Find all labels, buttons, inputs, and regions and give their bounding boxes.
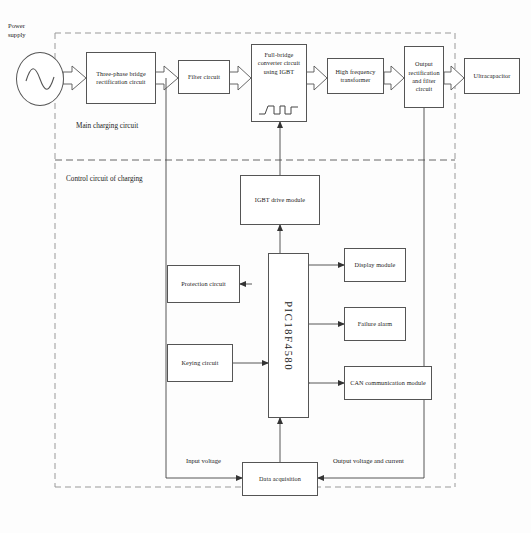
block-keying-circuit: Keying circuit xyxy=(167,344,233,382)
block-mcu-pic18f4580: PIC18F4580 xyxy=(268,253,309,418)
signal-label-input-voltage: Input voltage xyxy=(186,457,221,466)
zone-label-control-charging: Control circuit of charging xyxy=(66,175,143,183)
block-three-phase-bridge-rectifier: Three-phase bridge rectification circuit xyxy=(86,52,156,104)
signal-label-output-voltage-current: Output voltage and current xyxy=(333,457,404,466)
block-protection-circuit: Protection circuit xyxy=(167,265,240,303)
block-high-frequency-transformer: High frequency transformer xyxy=(327,58,384,94)
block-igbt-drive-module: IGBT drive module xyxy=(240,175,320,225)
block-output-rectification-filter: Output rectification and filter circuit xyxy=(404,46,444,108)
power-supply-label: Power supply xyxy=(8,22,26,40)
pwm-waveform-icon xyxy=(258,100,300,122)
block-failure-alarm: Failure alarm xyxy=(344,307,406,341)
block-data-acquisition: Data acquisition xyxy=(242,462,318,496)
ac-source-symbol xyxy=(16,52,64,106)
block-diagram: Main charging circuit Control circuit of… xyxy=(0,0,531,533)
block-display-module: Display module xyxy=(344,248,406,282)
block-filter-circuit: Filter circuit xyxy=(178,60,230,94)
mcu-label: PIC18F4580 xyxy=(283,300,295,370)
block-can-communication-module: CAN communication module xyxy=(344,366,432,400)
zone-label-main-charging: Main charging circuit xyxy=(76,122,138,130)
block-ultracapacitor: Ultracapacitor xyxy=(464,58,520,94)
